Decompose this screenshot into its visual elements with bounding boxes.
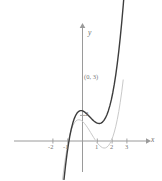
y-intercept-label-secondary: 2 — [85, 111, 89, 118]
y-axis-arrow-icon — [80, 23, 86, 28]
x-axis-label: x — [151, 136, 154, 144]
x-tick-label-1: 1 — [95, 144, 98, 151]
x-tick-label-2: 2 — [110, 144, 113, 151]
coordinate-plane — [0, 0, 162, 181]
graph-figure: y x -2 -1 1 2 3 2 (0, 3) — [0, 0, 162, 181]
y-intercept-label-primary: (0, 3) — [84, 74, 98, 81]
x-tick-label-minus2: -2 — [48, 144, 53, 151]
primary-curve — [64, 0, 128, 179]
x-tick-label-minus1: -1 — [63, 144, 68, 151]
y-axis-label: y — [88, 29, 91, 37]
x-tick-label-3: 3 — [125, 144, 128, 151]
